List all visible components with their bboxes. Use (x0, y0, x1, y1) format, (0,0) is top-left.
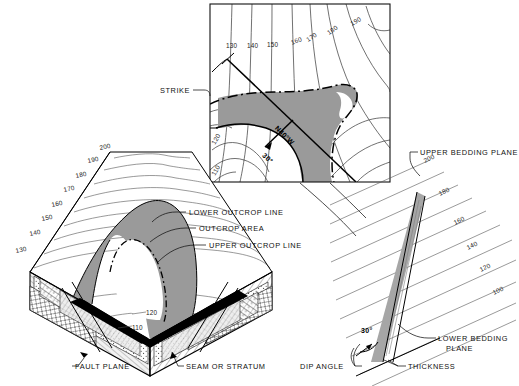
callout-lower-bedding-plane: LOWER BEDDING (438, 334, 508, 343)
leader-upper-bedding-plane (410, 152, 420, 176)
leader-map-to-section (300, 183, 356, 236)
block-contour-label-190: 190 (87, 155, 100, 164)
callout-lower-bedding-plane-line2: PLANE (446, 344, 473, 353)
leader-strike (193, 90, 210, 96)
map-contour-label-150: 150 (267, 41, 279, 48)
section-dip-value: 30° (361, 327, 373, 334)
section-contour-label-160: 160 (452, 215, 465, 226)
callout-lower-outcrop-line: LOWER OUTCROP LINE (189, 208, 283, 217)
section-contour-label-180: 180 (437, 186, 450, 197)
block-contour-label-110: 110 (132, 324, 143, 331)
callout-thickness: THICKNESS (408, 362, 455, 371)
block-contour-label-170: 170 (63, 184, 76, 193)
figure-canvas: N40°W 30° 130 140 150 160 170 180 190 12… (0, 0, 519, 386)
block-contour-label-140: 140 (29, 228, 42, 237)
callout-dip-angle: DIP ANGLE (300, 362, 344, 371)
callout-seam-or-stratum: SEAM OR STRATUM (186, 362, 266, 371)
cross-section-panel: 30° 200 180 160 140 120 100 UPPER BEDDIN… (300, 148, 518, 386)
map-contour-label-140: 140 (247, 42, 259, 49)
map-contour-label-130: 130 (226, 42, 238, 49)
callout-upper-outcrop-line: UPPER OUTCROP LINE (209, 241, 302, 250)
block-contour-label-120: 120 (146, 309, 158, 316)
block-contour-label-150: 150 (41, 213, 54, 222)
section-contour-label-140: 140 (465, 240, 478, 251)
leader-map-to-section-2 (330, 183, 366, 218)
block-contour-label-160: 160 (51, 199, 64, 208)
callout-upper-bedding-plane: UPPER BEDDING PLANE (420, 148, 518, 157)
callout-outcrop-area: OUTCROP AREA (199, 224, 264, 233)
block-contour-label-130: 130 (15, 245, 28, 254)
block-contour-label-200: 200 (99, 142, 112, 151)
structure-contour-map-panel: N40°W 30° 130 140 150 160 170 180 190 12… (210, 4, 390, 182)
section-contour-label-100: 100 (491, 285, 504, 296)
geology-figure: N40°W 30° 130 140 150 160 170 180 190 12… (0, 0, 519, 386)
callout-fault-plane: FAULT PLANE (75, 362, 130, 371)
arrowhead-fault-plane (80, 352, 88, 358)
section-structure-contours (330, 160, 516, 386)
block-contour-label-180: 180 (75, 170, 88, 179)
section-contour-label-120: 120 (478, 262, 491, 273)
callout-strike: STRIKE (160, 86, 190, 95)
